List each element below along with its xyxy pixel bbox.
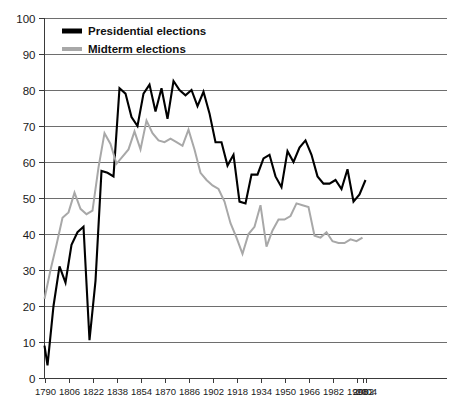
- x-tick-label-1806: 1806: [59, 386, 80, 397]
- x-tick-label-1790: 1790: [35, 386, 56, 397]
- y-tick-label-70: 70: [23, 121, 36, 133]
- x-tick-label-2004: 2004: [356, 386, 377, 397]
- y-tick-label-90: 90: [23, 49, 36, 61]
- y-tick-label-0: 0: [29, 373, 35, 385]
- y-tick-label-30: 30: [23, 265, 36, 277]
- x-tick-label-1886: 1886: [179, 386, 200, 397]
- x-axis-tick-labels: 1790180618221838185418701886190219181934…: [35, 386, 377, 397]
- x-tick-label-1902: 1902: [203, 386, 224, 397]
- y-tick-label-50: 50: [23, 193, 36, 205]
- y-tick-label-60: 60: [23, 157, 36, 169]
- y-tick-label-40: 40: [23, 229, 36, 241]
- x-tick-label-1982: 1982: [323, 386, 344, 397]
- y-tick-label-20: 20: [23, 301, 36, 313]
- x-tick-label-1822: 1822: [83, 386, 104, 397]
- chart-canvas: 0102030405060708090100 17901806182218381…: [0, 0, 458, 418]
- x-tick-label-1966: 1966: [299, 386, 320, 397]
- legend-label-presidential: Presidential elections: [88, 25, 206, 37]
- x-tick-label-1934: 1934: [251, 386, 272, 397]
- y-tick-label-100: 100: [16, 13, 35, 25]
- x-tick-label-1870: 1870: [155, 386, 176, 397]
- x-tick-label-1950: 1950: [275, 386, 296, 397]
- y-tick-label-80: 80: [23, 85, 36, 97]
- x-tick-label-1838: 1838: [107, 386, 128, 397]
- legend-label-midterm: Midterm elections: [88, 43, 186, 55]
- x-tick-label-1854: 1854: [131, 386, 152, 397]
- y-tick-label-10: 10: [23, 337, 36, 349]
- x-tick-label-1918: 1918: [227, 386, 248, 397]
- turnout-line-chart: 0102030405060708090100 17901806182218381…: [0, 0, 458, 418]
